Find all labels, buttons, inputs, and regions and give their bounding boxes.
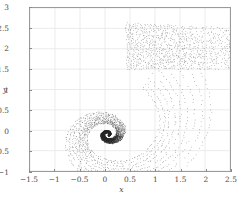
- y-tick-mark: [29, 69, 32, 70]
- y-tick-label: −1: [0, 168, 9, 177]
- plot-frame: [29, 7, 231, 172]
- x-axis-label: x: [0, 185, 243, 194]
- y-tick-label: 2: [4, 44, 9, 53]
- chart-figure: −1−0.500.511.522.53 −1.5−1−0.500.511.522…: [0, 0, 243, 199]
- y-tick-mark: [29, 48, 32, 49]
- x-tick-label: 2: [203, 175, 208, 184]
- x-tick-mark: [181, 169, 182, 172]
- x-tick-mark: [155, 169, 156, 172]
- x-tick-label: 0.5: [124, 175, 136, 184]
- x-tick-label: −1.5: [20, 175, 38, 184]
- y-tick-mark: [29, 110, 32, 111]
- y-tick-mark: [29, 151, 32, 152]
- y-tick-label: 1.5: [0, 64, 9, 73]
- x-tick-label: 2.5: [225, 175, 237, 184]
- y-axis-label: y: [3, 85, 7, 94]
- x-tick-label: 0: [102, 175, 107, 184]
- y-tick-label: 3: [4, 3, 9, 12]
- x-tick-mark: [54, 169, 55, 172]
- y-tick-mark: [29, 28, 32, 29]
- scatter-points: [30, 8, 230, 171]
- x-tick-mark: [206, 169, 207, 172]
- x-tick-label: 1: [153, 175, 158, 184]
- x-tick-mark: [105, 169, 106, 172]
- x-tick-mark: [231, 169, 232, 172]
- y-tick-label: 0.5: [0, 106, 9, 115]
- x-tick-label: 1.5: [175, 175, 187, 184]
- y-tick-label: −0.5: [0, 147, 9, 156]
- y-tick-label: 0: [4, 126, 9, 135]
- y-tick-mark: [29, 90, 32, 91]
- x-tick-mark: [80, 169, 81, 172]
- y-tick-label: 2.5: [0, 23, 9, 32]
- y-tick-mark: [29, 131, 32, 132]
- y-tick-mark: [29, 172, 32, 173]
- y-tick-mark: [29, 7, 32, 8]
- x-tick-mark: [130, 169, 131, 172]
- x-tick-label: −1: [49, 175, 60, 184]
- x-tick-label: −0.5: [71, 175, 89, 184]
